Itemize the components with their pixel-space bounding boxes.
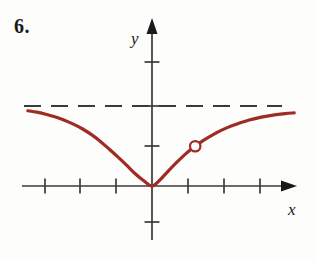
open-circle-point (190, 141, 200, 151)
y-axis-arrowhead (147, 18, 158, 34)
graph-canvas: y x (0, 0, 317, 262)
x-axis-arrowhead (281, 181, 297, 192)
function-curve (28, 111, 294, 186)
axes-group (22, 18, 297, 240)
x-axis-label: x (287, 200, 296, 219)
y-axis-label: y (129, 29, 139, 48)
figure-container: 6. (0, 0, 317, 262)
